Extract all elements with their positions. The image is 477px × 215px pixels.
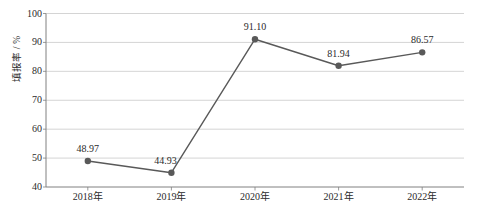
x-axis-tick-label: 2020年 xyxy=(220,191,290,202)
line-chart: 填报率 / % 405060708090100 2018年2019年2020年2… xyxy=(0,0,477,215)
series-line xyxy=(88,39,422,173)
x-axis-ticks xyxy=(88,187,422,191)
data-point-label: 48.97 xyxy=(58,144,118,154)
x-axis-tick-label: 2019年 xyxy=(136,191,206,202)
x-axis-tick-label: 2018年 xyxy=(53,191,123,202)
plot-area xyxy=(0,0,477,215)
data-point-marker xyxy=(168,170,174,176)
data-point-marker xyxy=(85,158,91,164)
data-point-marker xyxy=(252,36,258,42)
x-axis-tick-label: 2021年 xyxy=(304,191,374,202)
data-point-marker xyxy=(419,49,425,55)
data-point-label: 86.57 xyxy=(392,35,452,45)
data-point-label: 44.93 xyxy=(135,156,195,166)
data-point-label: 91.10 xyxy=(225,22,285,32)
axis-lines xyxy=(43,14,46,188)
x-axis-tick-label: 2022年 xyxy=(387,191,457,202)
data-point-marker xyxy=(335,63,341,69)
data-point-label: 81.94 xyxy=(309,49,369,59)
